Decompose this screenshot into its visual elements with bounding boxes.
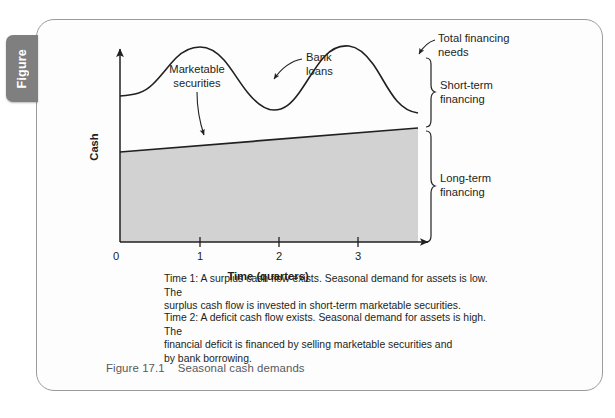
x-tick-label-2: 2 — [276, 250, 282, 262]
marketable-securities-label-line2: securities — [173, 77, 221, 89]
long-term-financing-label-line2: financing — [440, 186, 485, 198]
total-financing-needs-label-line2: needs — [438, 46, 469, 58]
x-tick-label-3: 3 — [355, 250, 361, 262]
figure-caption-title: Seasonal cash demands — [178, 362, 305, 374]
bank-loans-leader-line — [274, 59, 302, 79]
bank-loans-label-line2: loans — [306, 65, 333, 77]
marketable-securities-leader-line — [197, 92, 204, 135]
bank-loans-label-line1: Bank — [306, 51, 332, 63]
marketable-securities-label-line1: Marketable — [169, 63, 224, 75]
x-tick-label-0: 0 — [113, 250, 119, 262]
figure-caption-number: Figure 17.1 — [106, 362, 165, 374]
asset-needs-curve — [120, 46, 418, 113]
long-term-financing-region — [120, 128, 418, 242]
y-axis-title: Cash — [88, 133, 100, 161]
long-term-financing-brace — [426, 131, 435, 242]
figure-caption: Figure 17.1 Seasonal cash demands — [106, 362, 305, 374]
short-term-financing-label-line1: Short-term — [440, 79, 493, 91]
figure-tab: Figure — [6, 35, 38, 102]
note-time-2: Time 2: A deficit cash flow exists. Seas… — [164, 311, 494, 365]
figure-tab-label: Figure — [15, 49, 29, 88]
long-term-financing-label-line1: Long-term — [440, 172, 491, 184]
short-term-financing-brace — [426, 58, 435, 127]
short-term-financing-label-line2: financing — [440, 93, 485, 105]
note-time-1: Time 1: A surplus cash flow exists. Seas… — [164, 272, 494, 313]
total-financing-needs-label-line1: Total financing — [438, 32, 510, 44]
total-financing-needs-leader-line — [419, 40, 435, 54]
x-tick-label-1: 1 — [197, 250, 203, 262]
